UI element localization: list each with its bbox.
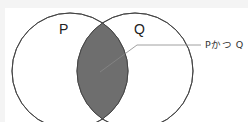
set-label-p: P xyxy=(59,22,68,36)
intersection-label: Pかつ Q xyxy=(205,40,244,50)
venn-diagram xyxy=(0,0,248,122)
set-label-q: Q xyxy=(134,22,145,36)
